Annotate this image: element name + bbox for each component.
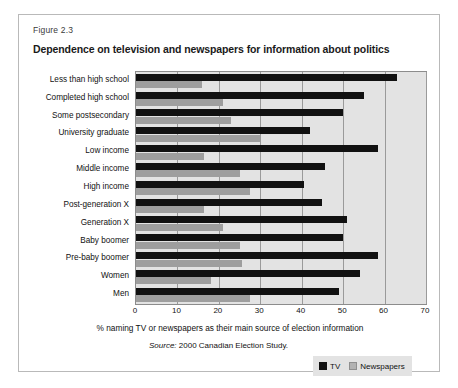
legend-swatch-newspapers-icon <box>349 362 357 370</box>
bar-tv <box>136 127 310 134</box>
x-axis-tick-label: 0 <box>133 306 137 315</box>
legend-item-newspapers: Newspapers <box>349 362 404 371</box>
y-axis-category-label: Post-generation X <box>63 200 129 210</box>
bar-newspapers <box>136 135 260 142</box>
y-axis-category-label: High income <box>83 182 129 192</box>
source-note: Source: 2000 Canadian Election Study. <box>149 341 288 350</box>
page-title: Dependence on television and newspapers … <box>33 43 389 55</box>
bar-newspapers <box>136 260 242 267</box>
x-axis-tick-label: 40 <box>296 306 305 315</box>
source-label: Source: <box>149 341 177 350</box>
bar-tv <box>136 181 304 188</box>
y-axis-category-label: Generation X <box>81 218 129 228</box>
y-axis-category-labels: Less than high schoolCompleted high scho… <box>19 71 133 303</box>
bar-newspapers <box>136 153 204 160</box>
x-axis-title: % naming TV or newspapers as their main … <box>19 323 441 333</box>
x-axis-tick-label: 10 <box>172 306 181 315</box>
bar-newspapers <box>136 242 240 249</box>
x-axis-tick-label: 50 <box>338 306 347 315</box>
y-axis-category-label: Completed high school <box>46 93 129 103</box>
bar-newspapers <box>136 206 204 213</box>
y-axis-category-label: Less than high school <box>50 75 129 85</box>
legend-label-newspapers: Newspapers <box>360 362 404 371</box>
bar-newspapers <box>136 295 250 302</box>
y-axis-category-label: University graduate <box>58 128 129 138</box>
gridline <box>426 72 427 304</box>
bar-tv <box>136 163 325 170</box>
bar-tv <box>136 288 339 295</box>
legend-swatch-tv-icon <box>319 362 327 370</box>
x-axis-tick-label: 30 <box>255 306 264 315</box>
legend-label-tv: TV <box>330 362 340 371</box>
y-axis-category-label: Women <box>101 271 129 281</box>
figure-panel: Figure 2.3 Dependence on television and … <box>18 14 440 372</box>
bar-tv <box>136 145 378 152</box>
chart-container: Less than high schoolCompleted high scho… <box>19 71 441 373</box>
y-axis-category-label: Some postsecondary <box>52 111 129 121</box>
bar-tv <box>136 234 343 241</box>
x-axis-tick-label: 70 <box>421 306 430 315</box>
bar-tv <box>136 252 378 259</box>
bar-tv <box>136 109 343 116</box>
figure-number: Figure 2.3 <box>33 25 73 35</box>
y-axis-category-label: Baby boomer <box>80 236 129 246</box>
plot-area <box>135 71 427 305</box>
x-axis-tick-label: 60 <box>379 306 388 315</box>
bar-newspapers <box>136 188 250 195</box>
source-text: 2000 Canadian Election Study. <box>179 341 288 350</box>
legend-item-tv: TV <box>319 362 340 371</box>
gridline <box>385 72 386 304</box>
bar-tv <box>136 270 360 277</box>
bar-tv <box>136 216 347 223</box>
bar-newspapers <box>136 224 223 231</box>
chart-legend: TV Newspapers <box>313 356 412 376</box>
bar-tv <box>136 92 364 99</box>
bar-newspapers <box>136 117 231 124</box>
bar-newspapers <box>136 99 223 106</box>
y-axis-category-label: Men <box>113 289 129 299</box>
x-axis-tick-label: 20 <box>213 306 222 315</box>
y-axis-category-label: Low income <box>85 146 129 156</box>
y-axis-category-label: Pre-baby boomer <box>66 253 129 263</box>
bar-newspapers <box>136 277 211 284</box>
bar-tv <box>136 199 322 206</box>
bar-newspapers <box>136 170 240 177</box>
bar-tv <box>136 74 397 81</box>
x-axis-tick-labels: 010203040506070 <box>135 306 427 320</box>
bar-newspapers <box>136 81 202 88</box>
y-axis-category-label: Middle income <box>76 164 129 174</box>
